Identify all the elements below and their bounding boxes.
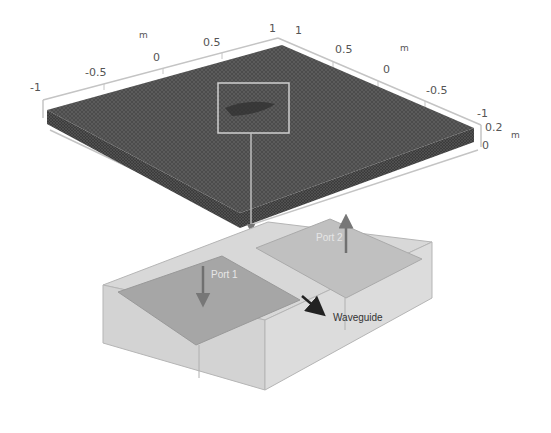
port1-label: Port 1	[211, 270, 238, 280]
waveguide-label: Waveguide	[333, 313, 383, 323]
figure: -1 -0.5 0 0.5 1 m 1 0.5 0 -0.5 -1 m 0.2 …	[0, 0, 551, 433]
waveguide-box	[103, 219, 432, 390]
left-tick-0: 0	[153, 52, 160, 63]
port2-label: Port 2	[316, 233, 343, 243]
left-tick-05: 0.5	[203, 37, 221, 48]
meshed-slab	[47, 45, 474, 228]
right-tick-neg05: -0.5	[426, 85, 447, 96]
diagram-canvas	[0, 0, 551, 433]
left-tick-neg1: -1	[30, 82, 41, 93]
right-tick-05: 0.5	[335, 44, 353, 55]
vertical-tick-02: 0.2	[485, 122, 503, 133]
vertical-axis-unit: m	[511, 131, 520, 140]
right-tick-0: 0	[383, 64, 390, 75]
vertical-tick-0: 0	[482, 140, 489, 151]
left-tick-neg05: -0.5	[85, 67, 106, 78]
left-tick-1: 1	[269, 23, 276, 34]
left-axis-unit: m	[139, 31, 148, 40]
right-axis-unit: m	[400, 44, 409, 53]
right-tick-1: 1	[295, 25, 302, 36]
right-tick-neg1: -1	[477, 108, 488, 119]
slab-top-face	[47, 45, 474, 213]
